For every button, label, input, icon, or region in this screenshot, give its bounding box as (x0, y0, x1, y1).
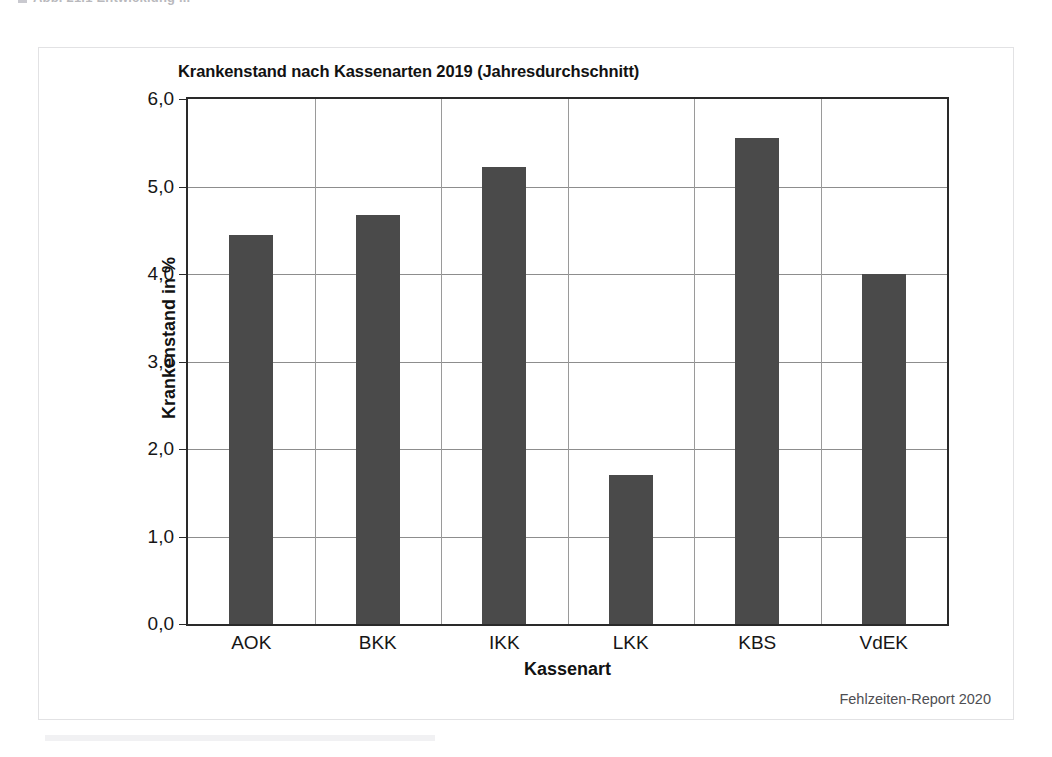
bar-group: BKK (315, 99, 442, 624)
x-axis-category-label: AOK (231, 632, 271, 654)
x-axis-category-label: LKK (613, 632, 649, 654)
figure-card: Krankenstand nach Kassenarten 2019 (Jahr… (38, 47, 1014, 720)
y-axis-tick (179, 624, 188, 625)
x-axis-category-label: IKK (489, 632, 520, 654)
x-axis-title: Kassenart (186, 659, 949, 680)
bar (735, 138, 779, 625)
figure-caption-strip: Abb. 21.1 Entwicklung ... (18, 0, 638, 8)
y-axis-title: Krankenstand in % (159, 257, 180, 419)
y-axis-tick (179, 99, 188, 100)
bar-group: LKK (568, 99, 695, 624)
source-note: Fehlzeiten-Report 2020 (839, 691, 991, 707)
bar (356, 215, 400, 624)
bar-group: KBS (694, 99, 821, 624)
x-axis-category-label: VdEK (859, 632, 908, 654)
y-axis-tick (179, 449, 188, 450)
y-axis-tick-label: 5,0 (148, 176, 174, 198)
bar-series: AOKBKKIKKLKKKBSVdEK (188, 99, 947, 624)
y-axis-tick-label: 1,0 (148, 526, 174, 548)
plot-area: 0,01,02,03,04,05,06,0 AOKBKKIKKLKKKBSVdE… (186, 97, 949, 626)
y-axis-tick-label: 0,0 (148, 613, 174, 635)
y-axis-tick (179, 187, 188, 188)
chart-title: Krankenstand nach Kassenarten 2019 (Jahr… (178, 62, 639, 81)
bar (229, 235, 273, 624)
x-axis-category-label: KBS (738, 632, 776, 654)
caption-marker-icon (18, 0, 27, 3)
y-axis-tick (179, 537, 188, 538)
figure-caption-text: Abb. 21.1 Entwicklung ... (33, 0, 190, 5)
bar (482, 167, 526, 624)
bar (609, 475, 653, 624)
y-axis-tick-label: 6,0 (148, 88, 174, 110)
y-axis-tick (179, 274, 188, 275)
x-axis-category-label: BKK (359, 632, 397, 654)
bar (862, 274, 906, 624)
bar-group: AOK (188, 99, 315, 624)
y-axis-tick-label: 2,0 (148, 438, 174, 460)
bar-group: VdEK (821, 99, 948, 624)
y-axis-tick (179, 362, 188, 363)
paper-artifact (45, 735, 435, 741)
bar-group: IKK (441, 99, 568, 624)
